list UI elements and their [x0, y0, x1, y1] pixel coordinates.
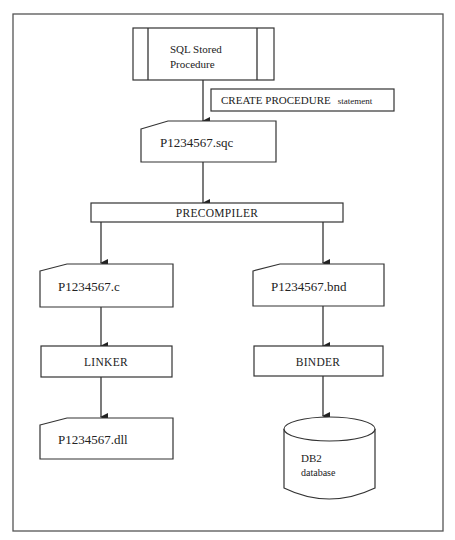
note-suffix-text: statement: [338, 96, 373, 106]
c-file-label: P1234567.c: [58, 279, 120, 294]
db2-database-line1: DB2: [301, 452, 322, 464]
sqc-file-label: P1234567.sqc: [160, 135, 234, 150]
note-main-text: CREATE PROCEDURE: [221, 94, 331, 106]
bnd-file-node: P1234567.bnd: [253, 264, 384, 306]
sql-stored-procedure-node: SQL Stored Procedure: [133, 28, 274, 80]
sqc-file-node: P1234567.sqc: [141, 121, 276, 162]
sql-stored-procedure-line1: SQL Stored: [170, 43, 222, 55]
binder-node: BINDER: [254, 346, 383, 376]
linker-node: LINKER: [41, 346, 172, 377]
linker-label: LINKER: [84, 356, 128, 368]
dll-file-label: P1234567.dll: [58, 432, 128, 447]
binder-label: BINDER: [296, 356, 341, 368]
cylinder-top: [284, 417, 375, 441]
c-file-node: P1234567.c: [40, 264, 173, 307]
create-procedure-note: CREATE PROCEDURE statement: [211, 89, 394, 111]
bnd-file-label: P1234567.bnd: [271, 279, 347, 294]
precompiler-node: PRECOMPILER: [91, 203, 343, 222]
sql-stored-procedure-line2: Procedure: [170, 58, 215, 70]
precompiler-label: PRECOMPILER: [176, 207, 259, 219]
flowchart: SQL Stored Procedure CREATE PROCEDURE st…: [0, 0, 455, 540]
db2-database-line2: database: [301, 467, 336, 478]
dll-file-node: P1234567.dll: [40, 418, 173, 459]
db2-database-node: DB2 database: [284, 417, 375, 499]
